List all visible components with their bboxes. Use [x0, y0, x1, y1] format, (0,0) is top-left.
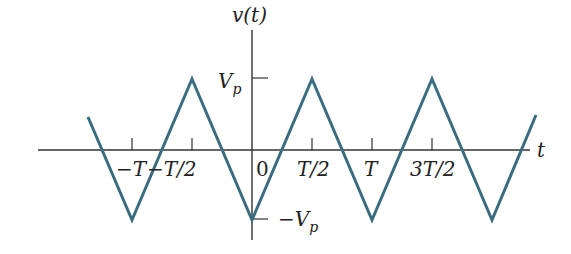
x-tick-label-T-half: T/2 [297, 157, 330, 181]
x-axis-label: t [537, 138, 546, 162]
x-tick-label-3T-half: 3T/2 [410, 157, 456, 181]
x-tick-label-neg-T-half: −T/2 [147, 157, 197, 181]
vp-label: Vp [218, 69, 241, 97]
x-tick-label-zero: 0 [256, 157, 269, 181]
neg-vp-label: −Vp [278, 207, 318, 235]
y-axis-label: v(t) [232, 3, 267, 27]
x-tick-label-neg-T: −T [116, 157, 148, 181]
triangle-wave-diagram: v(t) t Vp −Vp −T −T/2 0 T/2 T 3T/2 [0, 0, 571, 254]
x-tick-label-T: T [364, 157, 379, 181]
